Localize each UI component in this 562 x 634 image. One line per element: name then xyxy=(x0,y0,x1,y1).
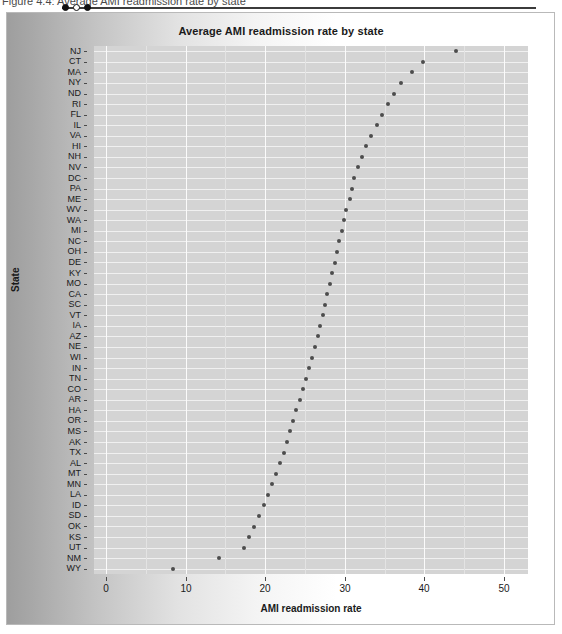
data-point xyxy=(266,493,270,497)
y-axis-tick-label: DE xyxy=(68,258,81,267)
grid-line-vertical-minor xyxy=(225,46,226,574)
data-point xyxy=(298,398,302,402)
grid-line-horizontal xyxy=(94,347,528,348)
y-axis-tick-label: AZ xyxy=(69,332,81,341)
grid-line-horizontal xyxy=(94,241,528,242)
y-axis-tick-label: MI xyxy=(71,226,81,235)
y-axis-tick-label: KS xyxy=(69,533,81,542)
data-point xyxy=(321,313,325,317)
x-axis-tick-label: 40 xyxy=(404,583,444,594)
y-axis-tick-mark xyxy=(84,442,87,443)
y-axis-tick-mark xyxy=(84,157,87,158)
y-axis-tick-mark xyxy=(84,368,87,369)
grid-line-horizontal xyxy=(94,368,528,369)
grid-line-vertical-minor xyxy=(305,46,306,574)
y-axis-tick-mark xyxy=(84,167,87,168)
y-axis-tick-mark xyxy=(84,484,87,485)
y-axis-title: State xyxy=(10,268,21,292)
y-axis-tick-mark xyxy=(84,252,87,253)
data-point xyxy=(278,461,282,465)
y-axis-tick-label: KY xyxy=(69,269,81,278)
page-slider[interactable] xyxy=(62,6,536,11)
slider-dot-2[interactable] xyxy=(73,4,80,11)
data-point xyxy=(247,535,251,539)
grid-line-vertical-minor xyxy=(464,46,465,574)
grid-line-vertical-major xyxy=(186,46,187,574)
slider-track[interactable] xyxy=(62,7,536,9)
y-axis-tick-mark xyxy=(84,389,87,390)
data-point xyxy=(356,165,360,169)
slider-dot-3[interactable] xyxy=(84,4,91,11)
data-point xyxy=(352,176,356,180)
y-axis-tick-mark xyxy=(84,284,87,285)
y-axis-tick-mark xyxy=(84,463,87,464)
x-axis-tick-mark xyxy=(265,577,266,581)
data-point xyxy=(270,482,274,486)
grid-line-horizontal xyxy=(94,442,528,443)
grid-line-horizontal xyxy=(94,252,528,253)
data-point xyxy=(344,208,348,212)
grid-line-horizontal xyxy=(94,548,528,549)
y-axis-tick-mark xyxy=(84,558,87,559)
y-axis-tick-label: NE xyxy=(68,342,81,351)
x-axis-tick-label: 0 xyxy=(86,583,126,594)
y-axis-tick-label: CO xyxy=(68,385,82,394)
slider-dot-1[interactable] xyxy=(62,4,69,11)
y-axis-tick-mark xyxy=(84,210,87,211)
y-axis-tick-mark xyxy=(84,537,87,538)
grid-line-horizontal xyxy=(94,136,528,137)
y-axis-tick-mark xyxy=(84,199,87,200)
y-axis-tick-label: NC xyxy=(68,237,81,246)
data-point xyxy=(316,334,320,338)
y-axis-tick-mark xyxy=(84,379,87,380)
y-axis-tick-label: HA xyxy=(68,406,81,415)
y-axis-tick-label: NM xyxy=(67,554,81,563)
grid-line-horizontal xyxy=(94,210,528,211)
data-point xyxy=(313,345,317,349)
grid-line-vertical-minor xyxy=(385,46,386,574)
data-point xyxy=(328,282,332,286)
grid-line-horizontal xyxy=(94,231,528,232)
data-point xyxy=(252,525,256,529)
y-axis-labels: NJCTMANYNDRIFLILVAHINHNVDCPAMEWVWAMINCOH… xyxy=(0,46,90,574)
grid-line-horizontal xyxy=(94,262,528,263)
grid-line-vertical-minor xyxy=(146,46,147,574)
grid-line-horizontal xyxy=(94,484,528,485)
screenshot-page: Figure 4.4: Average AMI readmission rate… xyxy=(0,0,562,634)
grid-line-vertical-major xyxy=(345,46,346,574)
y-axis-tick-label: MT xyxy=(68,469,81,478)
grid-line-horizontal xyxy=(94,115,528,116)
data-point xyxy=(171,567,175,571)
y-axis-tick-mark xyxy=(84,421,87,422)
grid-line-horizontal xyxy=(94,125,528,126)
y-axis-tick-mark xyxy=(84,189,87,190)
data-point xyxy=(335,250,339,254)
y-axis-tick-mark xyxy=(84,431,87,432)
grid-line-horizontal xyxy=(94,83,528,84)
y-axis-tick-mark xyxy=(84,51,87,52)
y-axis-tick-mark xyxy=(84,220,87,221)
y-axis-tick-mark xyxy=(84,273,87,274)
y-axis-tick-label: SD xyxy=(68,511,81,520)
grid-line-horizontal xyxy=(94,62,528,63)
grid-line-horizontal xyxy=(94,220,528,221)
y-axis-tick-mark xyxy=(84,231,87,232)
x-axis-tick-mark xyxy=(504,577,505,581)
y-axis-tick-label: NV xyxy=(68,163,81,172)
grid-line-horizontal xyxy=(94,379,528,380)
y-axis-tick-label: ND xyxy=(68,89,81,98)
y-axis-tick-label: WA xyxy=(67,216,81,225)
y-axis-tick-label: ME xyxy=(68,195,82,204)
grid-line-horizontal xyxy=(94,558,528,559)
grid-line-horizontal xyxy=(94,495,528,496)
grid-line-horizontal xyxy=(94,389,528,390)
grid-line-horizontal xyxy=(94,400,528,401)
data-point xyxy=(291,419,295,423)
y-axis-tick-mark xyxy=(84,94,87,95)
grid-line-horizontal xyxy=(94,178,528,179)
grid-line-horizontal xyxy=(94,453,528,454)
data-point xyxy=(310,356,314,360)
y-axis-tick-label: AK xyxy=(69,438,81,447)
grid-line-horizontal xyxy=(94,516,528,517)
y-axis-tick-label: DC xyxy=(68,174,81,183)
